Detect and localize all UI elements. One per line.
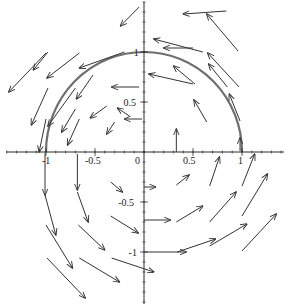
x-tick-label: 0 <box>135 155 140 166</box>
field-arrow <box>176 206 202 222</box>
field-arrow <box>62 109 76 132</box>
field-arrow <box>210 157 220 186</box>
field-arrow <box>154 39 203 52</box>
x-tick-label: 0.5 <box>183 155 196 166</box>
field-arrow <box>209 64 228 87</box>
field-arrow <box>207 14 238 51</box>
x-tick-label: 1 <box>238 155 243 166</box>
y-tick-label: -0.5 <box>118 197 134 208</box>
field-arrow <box>210 192 236 222</box>
field-arrow <box>39 119 46 152</box>
field-arrow <box>183 11 226 14</box>
field-arrow <box>111 182 123 192</box>
vector-field-plot: -1-0.500.5110.5-0.5-1 <box>0 0 288 306</box>
field-arrow <box>68 119 80 145</box>
field-arrow <box>173 66 195 84</box>
field-arrow <box>111 216 138 233</box>
y-tick-label: -1 <box>129 247 137 258</box>
x-tick-label: -0.5 <box>85 155 101 166</box>
field-arrow <box>90 106 107 118</box>
field-arrow <box>79 258 119 282</box>
field-arrow <box>118 108 130 116</box>
field-arrow <box>78 225 104 250</box>
y-tick-label: 0.5 <box>123 97 135 108</box>
field-arrow <box>47 258 85 298</box>
y-tick-label: 1 <box>134 47 139 58</box>
field-arrow <box>47 53 79 78</box>
field-arrow <box>120 7 139 26</box>
field-arrow <box>242 214 276 251</box>
field-arrow <box>9 53 46 92</box>
field-arrow <box>33 52 48 70</box>
field-arrow <box>149 74 193 84</box>
field-arrow <box>77 192 88 222</box>
field-arrow <box>48 88 75 126</box>
x-tick-label: -1 <box>42 155 50 166</box>
field-arrow <box>112 258 154 272</box>
field-arrow <box>210 224 247 246</box>
field-arrow <box>45 195 56 235</box>
field-arrow <box>107 122 115 134</box>
field-arrow <box>194 100 207 122</box>
field-arrow <box>242 174 267 216</box>
field-arrow <box>79 52 124 68</box>
field-arrow <box>176 175 189 185</box>
field-arrow <box>242 154 255 186</box>
